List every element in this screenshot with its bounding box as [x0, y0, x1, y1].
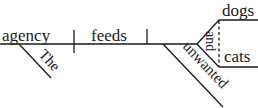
object-word-cats: cats: [224, 47, 250, 66]
verb-word: feeds: [91, 26, 127, 45]
object-word-dogs: dogs: [222, 1, 254, 20]
sentence-diagram: agency feeds The unwanted dogs cats and: [0, 0, 258, 108]
subject-modifier-word: The: [36, 46, 64, 74]
conjunction-word: and: [203, 31, 218, 51]
subject-word: agency: [2, 26, 51, 45]
